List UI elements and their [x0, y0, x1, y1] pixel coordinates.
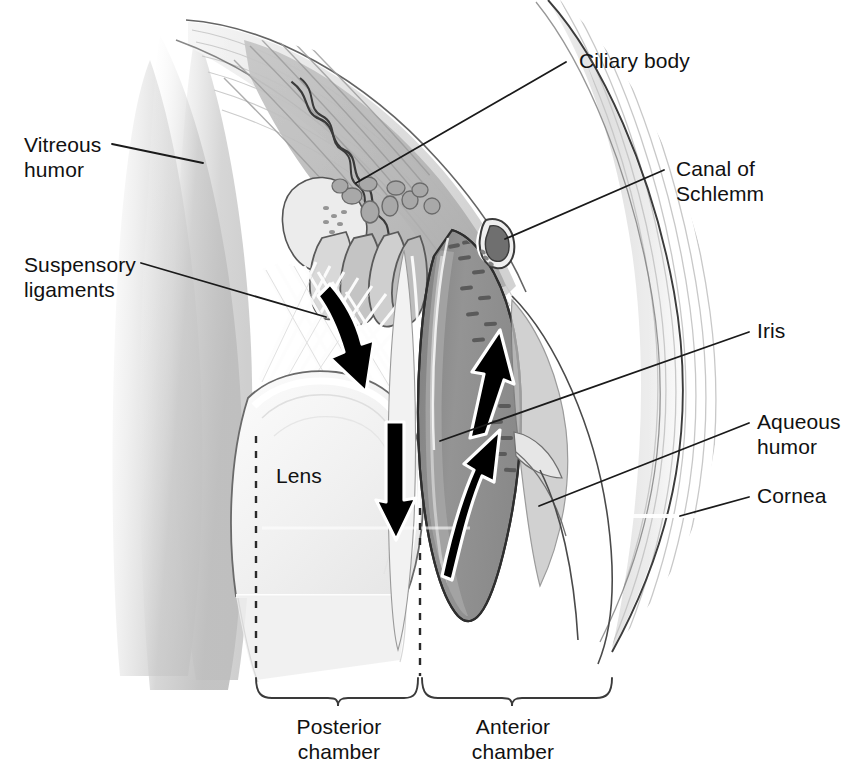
eye-anatomy-figure: Vitreous humor Suspensory ligaments Cili…: [0, 0, 867, 777]
eye-diagram-artwork: [0, 0, 867, 777]
label-ciliary-body: Ciliary body: [579, 48, 690, 73]
label-iris: Iris: [757, 318, 785, 343]
label-posterior-chamber: Posterior chamber: [246, 714, 432, 764]
label-canal-of-schlemm: Canal of Schlemm: [676, 156, 764, 206]
label-cornea: Cornea: [757, 483, 826, 508]
label-suspensory-ligaments: Suspensory ligaments: [24, 252, 136, 302]
label-anterior-chamber: Anterior chamber: [422, 714, 604, 764]
label-lens: Lens: [276, 463, 322, 488]
label-aqueous-humor: Aqueous humor: [757, 409, 841, 459]
label-vitreous-humor: Vitreous humor: [24, 132, 101, 182]
